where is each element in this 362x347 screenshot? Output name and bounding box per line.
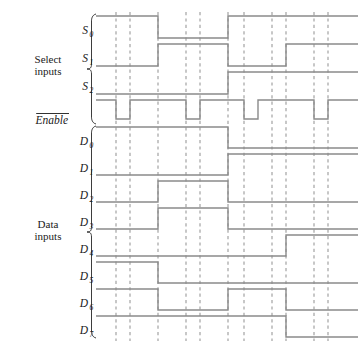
svg-text:Enable: Enable bbox=[34, 114, 68, 126]
svg-text:D: D bbox=[79, 243, 89, 255]
timing-diagram-canvas: S0S1S2EnableD0D1D2D3D4D5D6D7Selectinputs… bbox=[0, 0, 362, 347]
signal-subscript: 6 bbox=[90, 303, 94, 312]
waveform-s2 bbox=[96, 72, 358, 94]
group-label-data-line1: Data bbox=[38, 218, 59, 230]
waveform-d5 bbox=[96, 262, 358, 283]
svg-text:D: D bbox=[79, 162, 89, 174]
waveform-d2 bbox=[96, 181, 358, 202]
signal-subscript: 2 bbox=[90, 195, 94, 204]
group-label-data-line2: inputs bbox=[35, 230, 62, 242]
signal-labels-group: S0S1S2EnableD0D1D2D3D4D5D6D7Selectinputs… bbox=[34, 24, 93, 339]
svg-text:D: D bbox=[79, 324, 89, 336]
signal-label-enable: Enable bbox=[34, 114, 69, 127]
svg-text:D: D bbox=[79, 216, 89, 228]
grid-lines-group bbox=[116, 12, 328, 341]
svg-text:S: S bbox=[82, 52, 88, 64]
svg-text:S: S bbox=[82, 80, 88, 92]
waveform-d6 bbox=[96, 289, 358, 310]
svg-text:D: D bbox=[79, 270, 89, 282]
signal-subscript: 1 bbox=[90, 168, 94, 177]
signal-label-d1: D1 bbox=[79, 162, 94, 177]
signal-subscript: 0 bbox=[90, 141, 94, 150]
signal-subscript: 4 bbox=[90, 249, 94, 258]
group-label-select-line2: inputs bbox=[35, 65, 62, 77]
signal-subscript: 2 bbox=[90, 86, 94, 95]
waveform-enable bbox=[96, 100, 358, 119]
waveforms-group bbox=[96, 16, 358, 337]
signal-subscript: 5 bbox=[90, 276, 94, 285]
waveform-s0 bbox=[96, 16, 358, 38]
waveform-d7 bbox=[96, 316, 358, 337]
group-label-select-line1: Select bbox=[35, 53, 62, 65]
waveform-d1 bbox=[96, 154, 358, 175]
signal-subscript: 3 bbox=[89, 222, 94, 231]
signal-subscript: 0 bbox=[90, 30, 94, 39]
waveform-d4 bbox=[96, 235, 358, 256]
waveform-s1 bbox=[96, 44, 358, 66]
svg-text:S: S bbox=[82, 24, 88, 36]
timing-diagram-figure: S0S1S2EnableD0D1D2D3D4D5D6D7Selectinputs… bbox=[0, 0, 362, 347]
waveform-d3 bbox=[96, 208, 358, 229]
waveform-d0 bbox=[96, 127, 358, 148]
svg-text:D: D bbox=[79, 135, 89, 147]
svg-text:D: D bbox=[79, 297, 89, 309]
svg-text:D: D bbox=[79, 189, 89, 201]
signal-subscript: 1 bbox=[90, 58, 94, 67]
signal-subscript: 7 bbox=[90, 330, 94, 339]
